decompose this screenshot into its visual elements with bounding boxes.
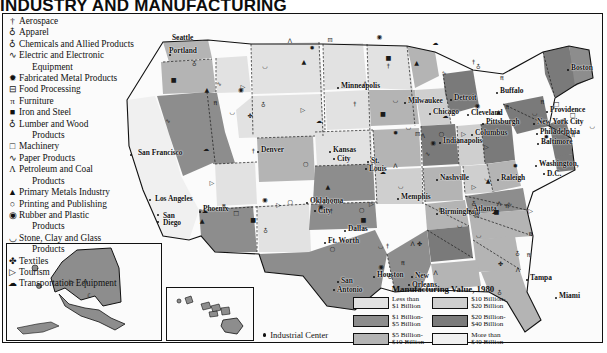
value-legend-text: $10 Billion-$20 Billion [471,296,506,311]
symbol-legend-row: ■Iron and Steel [6,107,174,118]
industry-symbol: Λ [421,133,425,139]
value-legend-line2: $40 Billion [471,339,503,346]
value-legend-swatch [432,297,468,309]
industry-symbol: π [529,231,533,237]
value-legend-column-right: $10 Billion-$20 Billion$20 Billion-$40 B… [432,296,506,346]
industry-symbol: ◡ [484,175,489,181]
page-title: INDUSTRY AND MANUFACTURING [0,0,607,12]
city-label: Boston [571,64,593,72]
symbol-legend-row: Products [6,221,174,232]
industry-symbol: ▷ [528,208,533,214]
symbol-legend-label: Petroleum and Coal [19,164,93,175]
industry-symbol: ◡ [230,109,235,115]
industry-symbol: ◉ [262,197,267,203]
value-legend-swatch [353,333,389,345]
industry-symbol: ▷ [471,184,476,190]
value-legend-text: More than$40 Billion [471,332,503,347]
industry-symbol: ✤ [498,261,503,267]
symbol-legend-label: Products [19,221,65,232]
symbol-legend-label: Paper Products [19,153,75,164]
city-label: Denver [261,146,284,154]
iron-steel-icon: ■ [6,107,19,118]
industry-symbol: ◉ [431,140,436,146]
industry-symbol: π [500,75,504,81]
city-label: New [415,272,429,280]
textiles-icon: ✤ [6,256,19,267]
svg-text:☾: ☾ [87,292,93,300]
symbol-legend-row: ○Printing and Publishing [6,199,174,210]
industry-symbol: ○ [330,246,335,252]
rubber-plastic-icon: ◉ [6,210,19,221]
value-legend-column-left: Less than$1 Billion$1 Billion-$5 Billion… [353,296,424,346]
city-label: San [341,277,353,285]
industry-symbol: ▷ [369,201,374,207]
industry-symbol: ☁ [432,40,438,46]
city-label: D.C. [547,170,561,178]
industry-symbol: ◡ [406,124,411,130]
industry-symbol: Λ [497,201,501,207]
transportation-equipment-icon: ☁ [6,278,19,289]
industry-symbol: ♁ [263,228,268,234]
symbol-legend-label: Equipment [19,62,73,73]
symbol-legend-row: Products [6,244,174,255]
industry-symbol: ♁ [515,251,520,257]
value-legend-row: More than$40 Billion [432,332,506,347]
city-label: Dallas [348,225,368,233]
industry-symbol: † [438,207,441,213]
symbol-legend-row: ⊟Food Processing [6,84,174,95]
industry-symbol: ◡ [476,232,481,238]
tourism-icon: ▷ [6,267,19,278]
primary-metals-icon: ▲ [6,187,19,198]
value-legend-swatch [432,315,468,327]
industry-symbol: □ [233,210,239,216]
industry-symbol: ▲ [326,184,331,190]
city-label: Tampa [530,274,552,282]
industry-symbol: π [222,203,226,209]
symbol-legend-label: Products [19,244,65,255]
stone-clay-glass-icon: ◡ [6,233,19,244]
symbol-legend-row: Products [6,130,174,141]
industry-symbol: □ [554,101,560,107]
city-label: Indianapolis [443,137,482,145]
symbol-legend-row: πFurniture [6,96,174,107]
value-legend-line2: $1 Billion [392,303,421,310]
city-label: Raleigh [501,174,525,182]
city-label: Buffalo [500,87,523,95]
industry-symbol: ⊟ [327,37,332,43]
chemicals-icon: ♁ [6,39,19,50]
industry-symbol: ▷ [276,202,281,208]
industry-symbol: † [252,148,255,154]
value-legend-line2: $40 Billion [471,321,506,328]
symbol-legend-label: Apparel [19,27,49,38]
symbol-legend-row: ♁Lumber and Wood [6,119,174,130]
industry-symbol: ○ [303,161,308,167]
printing-publishing-icon: ○ [6,199,19,210]
symbol-legend-row: ◡Stone, Clay and Glass [6,233,174,244]
symbol-legend-label: Products [19,176,65,187]
symbol-legend-row: ΛPetroleum and Coal [6,164,174,175]
symbol-legend-label: Aerospace [19,16,58,27]
lumber-wood-icon: ♁ [6,119,19,130]
symbol-legend-row: ◉Rubber and Plastic [6,210,174,221]
industry-symbol: ■ [250,217,256,223]
symbol-legend-label: Stone, Clay and Glass [19,233,101,244]
symbol-legend-label: Primary Metals Industry [19,187,110,198]
value-legend-row: $10 Billion-$20 Billion [432,296,506,311]
industry-symbol: ♁ [261,102,266,108]
industry-symbol: ■ [493,209,499,215]
symbol-legend-row: ▲Primary Metals Industry [6,187,174,198]
furniture-icon: π [6,96,19,107]
paper-products-icon: ∿ [6,153,19,164]
industry-symbol: □ [570,112,576,118]
industry-symbol: ✹ [513,163,518,169]
industry-symbol: ◡ [590,123,595,129]
value-legend-text: $1 Billion-$5 Billion [392,314,423,329]
symbol-legend-row: ▷Tourism [6,267,174,278]
industry-symbol: π [401,260,405,266]
industry-symbol: ◉ [379,264,384,270]
industry-symbol: Λ [393,163,397,169]
symbol-legend-row: ♁Apparel [6,27,174,38]
industry-symbol: ▲ [200,218,205,224]
symbol-legend-label: Machinery [19,141,59,152]
symbol-legend-label: Electric and Electronic [19,50,104,61]
